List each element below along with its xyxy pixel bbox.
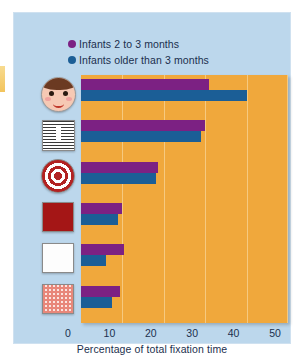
bar-solid-red-younger xyxy=(81,203,122,214)
category-icon-cell-1 xyxy=(37,116,79,154)
x-tick-50: 50 xyxy=(269,327,281,339)
gridline-50 xyxy=(287,75,288,323)
face-eye-left xyxy=(49,91,54,96)
bar-human-face-younger xyxy=(81,79,209,90)
legend-item-0: Infants 2 to 3 months xyxy=(68,36,278,52)
gridline-40 xyxy=(247,75,248,323)
legend-label-1: Infants older than 3 months xyxy=(79,54,209,66)
bar-plain-white-younger xyxy=(81,244,124,255)
legend-item-1: Infants older than 3 months xyxy=(68,52,278,68)
x-tick-10: 10 xyxy=(104,327,116,339)
category-icon-cell-3 xyxy=(37,198,79,236)
bar-checkered-older xyxy=(81,297,112,308)
bar-checkered-younger xyxy=(81,286,120,297)
bar-plain-white-older xyxy=(81,255,106,266)
newsprint-icon xyxy=(42,120,75,151)
x-tick-0: 0 xyxy=(65,327,71,339)
white-square-icon xyxy=(42,243,74,273)
legend-dot-purple-icon xyxy=(68,40,76,48)
x-tick-30: 30 xyxy=(186,327,198,339)
category-icon-cell-4 xyxy=(37,239,79,277)
face-eye-right xyxy=(63,91,68,96)
face-cheek-left xyxy=(45,97,51,101)
bar-bullseye-older xyxy=(81,173,156,184)
scan-edge-artifact xyxy=(0,66,5,92)
category-icon-column xyxy=(37,75,79,323)
chart-panel: Infants 2 to 3 months Infants older than… xyxy=(13,12,291,344)
category-icon-cell-5 xyxy=(37,280,79,318)
x-axis-title: Percentage of total fixation time xyxy=(13,343,291,355)
gridline-10 xyxy=(122,75,123,323)
bar-bullseye-younger xyxy=(81,162,158,173)
figure-container: Infants 2 to 3 months Infants older than… xyxy=(0,0,304,358)
checkered-square-icon xyxy=(42,284,74,314)
category-icon-cell-0 xyxy=(37,75,79,113)
category-icon-cell-2 xyxy=(37,157,79,195)
bar-newsprint-younger xyxy=(81,120,205,131)
legend: Infants 2 to 3 months Infants older than… xyxy=(68,36,278,68)
face-icon xyxy=(41,77,76,112)
legend-label-0: Infants 2 to 3 months xyxy=(79,38,179,50)
bar-solid-red-older xyxy=(81,214,118,225)
red-square-icon xyxy=(42,202,74,232)
bullseye-icon xyxy=(41,159,75,193)
gridline-30 xyxy=(205,75,206,323)
face-hair xyxy=(41,77,76,90)
gridline-20 xyxy=(164,75,165,323)
bar-newsprint-older xyxy=(81,131,201,142)
x-tick-40: 40 xyxy=(228,327,240,339)
bar-human-face-older xyxy=(81,90,247,101)
face-mouth xyxy=(53,100,64,108)
face-cheek-right xyxy=(66,97,72,101)
x-tick-20: 20 xyxy=(145,327,157,339)
plot-area xyxy=(81,75,288,323)
legend-dot-blue-icon xyxy=(68,56,76,64)
